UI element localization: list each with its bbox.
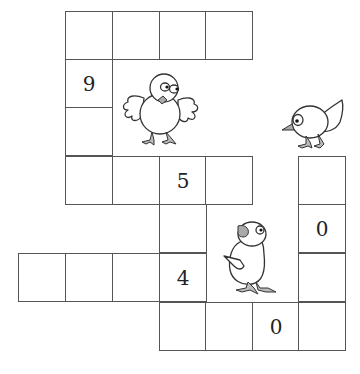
empty-cell[interactable] [18,253,66,302]
given-digit-cell: 4 [159,253,207,302]
empty-cell[interactable] [205,11,253,60]
empty-cell[interactable] [298,156,346,205]
empty-cell[interactable] [112,11,160,60]
empty-cell[interactable] [65,156,113,205]
empty-cell[interactable] [205,302,253,351]
empty-cell[interactable] [298,253,346,302]
chick-front-icon [120,68,202,148]
bird-pecking-icon [282,94,348,154]
empty-cell[interactable] [298,302,346,351]
given-digit-cell: 0 [252,302,300,351]
empty-cell[interactable] [112,156,160,205]
chick-looking-up-icon [220,214,284,298]
empty-cell[interactable] [205,156,253,205]
empty-cell[interactable] [65,253,113,302]
given-digit-cell: 0 [298,204,346,253]
empty-cell[interactable] [112,253,160,302]
given-digit-cell: 9 [65,59,113,108]
empty-cell[interactable] [159,302,207,351]
empty-cell[interactable] [65,107,113,156]
empty-cell[interactable] [159,204,207,253]
empty-cell[interactable] [65,11,113,60]
empty-cell[interactable] [159,11,207,60]
given-digit-cell: 5 [159,156,207,205]
